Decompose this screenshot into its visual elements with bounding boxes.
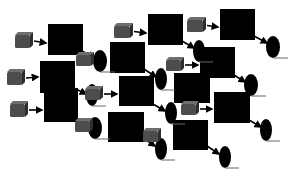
cube-icon: [85, 86, 117, 100]
ellipse-node: [155, 68, 175, 90]
square-node: [214, 92, 250, 123]
square-node: [108, 112, 144, 142]
cube-icon: [187, 17, 218, 32]
square-node: [148, 14, 183, 45]
square-node: [44, 88, 78, 122]
square-node: [48, 24, 83, 55]
cube-icon: [114, 23, 146, 38]
cube-icon: [10, 101, 42, 117]
connector-arrow: [182, 41, 194, 48]
cube-icon: [15, 32, 46, 48]
square-node: [174, 73, 210, 103]
ellipse-node: [244, 74, 266, 96]
cube-icon: [7, 69, 38, 85]
connector-arrow: [153, 104, 165, 111]
diagram-canvas: [0, 0, 293, 175]
connector-arrow: [234, 75, 245, 82]
cube-arrow: [134, 32, 146, 34]
cube-arrow: [34, 41, 46, 43]
cube-icon: [76, 52, 94, 66]
cube-icon: [143, 128, 161, 142]
connector-arrow: [254, 36, 267, 43]
ellipse-node: [219, 146, 239, 168]
diagram-svg: [0, 0, 293, 175]
ellipse-node: [266, 36, 288, 58]
cube-icon: [75, 118, 93, 132]
square-node: [110, 42, 145, 73]
cube-arrow: [207, 26, 218, 28]
square-node: [220, 9, 255, 40]
connector-arrow: [207, 146, 219, 154]
cube-arrow: [26, 77, 38, 78]
cube-icon: [181, 101, 212, 115]
connector-arrow: [144, 69, 156, 77]
ellipse-node: [260, 119, 280, 141]
connector-arrow: [249, 120, 261, 127]
cube-icon: [166, 57, 198, 71]
square-node: [119, 76, 154, 106]
